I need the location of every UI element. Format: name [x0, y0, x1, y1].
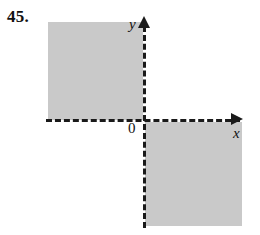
x-axis-label: x	[233, 126, 240, 141]
y-axis-arrow-icon	[138, 16, 150, 28]
y-axis-label: y	[129, 17, 136, 32]
figure-container: 45. y x 0	[0, 0, 260, 235]
shaded-region-quadrant-ii	[48, 22, 143, 120]
x-axis-arrow-icon	[231, 113, 243, 125]
origin-label: 0	[128, 121, 136, 136]
shaded-region-quadrant-iv	[145, 122, 242, 226]
coordinate-plane: y x 0	[0, 0, 260, 235]
y-axis-dashed-line	[143, 26, 146, 228]
